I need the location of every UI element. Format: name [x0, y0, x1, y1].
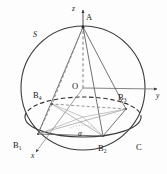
base-circle-label-c: C — [136, 143, 142, 152]
vertex-dot-b4 — [51, 103, 53, 105]
vertex-label-b3-base: B — [118, 92, 124, 102]
vertex-label-b1: B1 — [13, 141, 21, 150]
vertex-label-b4-base: B — [33, 90, 39, 100]
axis-y-label: y — [156, 92, 159, 100]
edge-a-b4 — [52, 27, 83, 104]
vertex-dot-b2 — [102, 135, 104, 137]
vertex-dot-b3 — [125, 108, 127, 110]
vertex-label-b2: B2 — [98, 144, 106, 153]
diagonal-b1-b3 — [38, 109, 126, 134]
vertex-dot-b1 — [37, 133, 39, 135]
radius-center-b3 — [83, 109, 126, 117]
center-label-o: O — [72, 82, 78, 91]
axis-z-label: z — [72, 5, 75, 13]
apex-label-a: A — [86, 13, 92, 22]
vertex-label-b4: B4 — [33, 91, 41, 100]
vertex-label-b2-base: B — [98, 143, 104, 153]
angle-label-alpha: α — [78, 130, 82, 138]
vertex-label-b1-base: B — [13, 140, 19, 150]
geometry-figure: z A S O y B4 B3 α B1 B2 x C — [0, 0, 167, 174]
edge-b3-b4 — [52, 104, 126, 109]
axis-x-label: x — [31, 152, 34, 160]
sphere-label-s: S — [33, 31, 37, 39]
vertex-label-b3: B3 — [118, 93, 126, 102]
vertex-dot-apex — [82, 26, 85, 29]
